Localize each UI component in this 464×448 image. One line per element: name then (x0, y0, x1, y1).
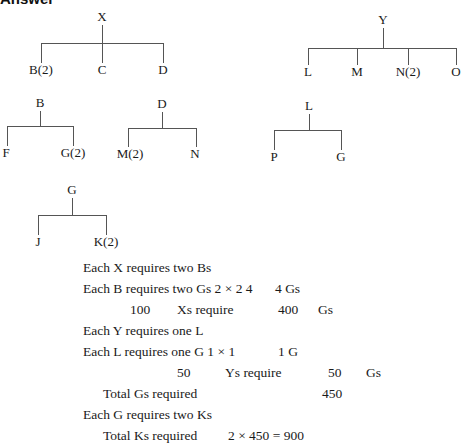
connector (38, 215, 39, 235)
calc-value: 400 (278, 302, 298, 318)
tree-b-root: B (36, 96, 45, 110)
connector (7, 126, 8, 146)
connector (102, 25, 103, 43)
tree-b-child: F (2, 146, 9, 160)
calc-result: 4 Gs (275, 281, 300, 297)
connector (73, 126, 74, 146)
tree-g-child: J (35, 235, 40, 249)
answer-heading: Answer (0, 0, 54, 7)
calc-total-value: 2 × 450 = 900 (228, 428, 304, 444)
calc-line: Each B requires two Gs 2 × 2 4 (83, 281, 253, 297)
connector (40, 111, 41, 126)
connector (106, 215, 107, 235)
calc-label: Ys require (225, 365, 282, 381)
connector (7, 126, 73, 127)
tree-d-root: D (157, 97, 166, 111)
tree-x-child: D (158, 63, 167, 77)
connector (38, 215, 106, 216)
tree-y-root: Y (378, 13, 387, 27)
tree-l-child: P (270, 150, 277, 164)
connector (128, 128, 196, 129)
connector (162, 112, 163, 128)
calc-line: Each L requires one G 1 × 1 (83, 344, 235, 360)
calc-unit: Gs (366, 365, 381, 381)
tree-y-child: O (451, 65, 460, 79)
connector (102, 43, 103, 63)
calc-result: 1 G (278, 344, 298, 360)
tree-b-child: G(2) (61, 146, 86, 160)
tree-g-child: K(2) (94, 235, 119, 249)
tree-g-root: G (67, 183, 76, 197)
connector (456, 48, 457, 65)
calc-qty: 50 (177, 365, 191, 381)
tree-x-child: B(2) (29, 63, 53, 77)
calc-label: Xs require (177, 302, 234, 318)
tree-d-child: N (190, 147, 199, 161)
connector (408, 48, 409, 65)
connector (341, 130, 342, 150)
tree-l-child: G (336, 150, 345, 164)
tree-y-child: M (351, 65, 363, 79)
connector (196, 128, 197, 147)
tree-x-root: X (97, 10, 106, 24)
connector (383, 28, 384, 48)
calc-line: Each G requires two Ks (83, 407, 212, 423)
connector (357, 48, 358, 65)
tree-y-child: L (304, 65, 312, 79)
calc-value: 50 (328, 365, 342, 381)
calc-unit: Gs (318, 302, 333, 318)
calc-total-value: 450 (322, 386, 342, 402)
tree-y-child: N(2) (396, 65, 421, 79)
connector (274, 130, 275, 150)
calc-line: Each X requires two Bs (83, 260, 211, 276)
calc-qty: 100 (130, 302, 150, 318)
connector (72, 198, 73, 215)
connector (308, 48, 309, 65)
calc-total-label: Total Ks required (103, 428, 197, 444)
connector (274, 130, 341, 131)
connector (308, 48, 456, 49)
calc-total-label: Total Gs required (103, 386, 197, 402)
connector (41, 43, 42, 63)
tree-d-child: M(2) (117, 147, 144, 161)
connector (163, 43, 164, 63)
tree-l-root: L (305, 99, 313, 113)
connector (309, 114, 310, 130)
tree-x-child: C (98, 63, 107, 77)
calc-line: Each Y requires one L (83, 323, 203, 339)
connector (128, 128, 129, 147)
